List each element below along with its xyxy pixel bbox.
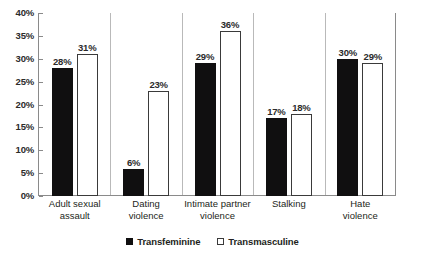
category-label-line: Hate [325, 198, 396, 210]
x-axis-category-labels: Adult sexualassaultDatingviolenceIntimat… [39, 198, 396, 228]
y-axis-tick-mark [39, 196, 43, 197]
bar-value-label: 36% [221, 20, 239, 30]
category-separator-line [110, 13, 111, 195]
category-label-line: Dating [110, 198, 181, 210]
y-axis-tick-mark [39, 82, 43, 83]
bar-value-label: 6% [127, 158, 140, 168]
bar-value-label: 29% [196, 52, 214, 62]
y-axis-tick-mark [39, 173, 43, 174]
y-axis-tick-label: 10% [0, 145, 34, 155]
category-label-line: assault [39, 210, 110, 222]
category-separator-line [325, 13, 326, 195]
category-separator-line [182, 13, 183, 195]
bar-chart: 0%5%10%15%20%25%30%35%40% 28%31%6%23%29%… [0, 0, 425, 255]
bar-hollow: 29% [362, 63, 383, 196]
bar-value-label: 23% [149, 80, 167, 90]
y-axis-tick-mark [39, 36, 43, 37]
x-axis-category-label: Hateviolence [325, 198, 396, 221]
category-label-line: Stalking [253, 198, 324, 210]
legend-item[interactable]: Transmasculine [217, 236, 298, 247]
bar-hollow: 36% [220, 31, 241, 196]
bar-value-label: 18% [292, 103, 310, 113]
y-axis-tick-label: 5% [0, 168, 34, 178]
x-axis-category-label: Intimate partnerviolence [182, 198, 253, 221]
y-axis-tick-mark [39, 150, 43, 151]
category-label-line: violence [325, 210, 396, 222]
chart-legend: TransfeminineTransmasculine [0, 233, 425, 249]
y-axis-tick-label: 40% [0, 8, 34, 18]
y-axis-tick-mark [39, 105, 43, 106]
x-axis-category-label: Adult sexualassault [39, 198, 110, 221]
plot-area: 28%31%6%23%29%36%17%18%30%29% [39, 13, 396, 196]
x-axis-category-label: Stalking [253, 198, 324, 210]
bar-hollow: 18% [291, 114, 312, 196]
y-axis-tick-labels: 0%5%10%15%20%25%30%35%40% [0, 0, 34, 200]
bar-filled: 17% [266, 118, 287, 196]
bar-value-label: 30% [339, 48, 357, 58]
legend-swatch-hollow [217, 238, 224, 245]
legend-item[interactable]: Transfeminine [126, 236, 200, 247]
legend-label: Transfeminine [137, 236, 200, 247]
y-axis-tick-label: 25% [0, 77, 34, 87]
y-axis-tick-mark [39, 13, 43, 14]
bar-value-label: 29% [364, 52, 382, 62]
category-label-line: Adult sexual [39, 198, 110, 210]
category-label-line: violence [182, 210, 253, 222]
bar-filled: 30% [337, 59, 358, 196]
bar-hollow: 31% [77, 54, 98, 196]
legend-label: Transmasculine [228, 236, 298, 247]
y-axis-tick-label: 20% [0, 100, 34, 110]
y-axis-tick-label: 35% [0, 31, 34, 41]
bar-value-label: 31% [78, 43, 96, 53]
bar-filled: 6% [123, 169, 144, 196]
category-label-line: violence [110, 210, 181, 222]
bar-hollow: 23% [148, 91, 169, 196]
category-separator-line [253, 13, 254, 195]
y-axis-tick-label: 0% [0, 191, 34, 201]
y-axis-tick-mark [39, 59, 43, 60]
legend-swatch-filled [126, 238, 133, 245]
y-axis-tick-mark [39, 127, 43, 128]
category-label-line: Intimate partner [182, 198, 253, 210]
y-axis-tick-label: 15% [0, 122, 34, 132]
bar-filled: 28% [52, 68, 73, 196]
bar-value-label: 28% [53, 57, 71, 67]
bar-filled: 29% [195, 63, 216, 196]
y-axis-tick-label: 30% [0, 54, 34, 64]
bar-value-label: 17% [267, 107, 285, 117]
x-axis-category-label: Datingviolence [110, 198, 181, 221]
